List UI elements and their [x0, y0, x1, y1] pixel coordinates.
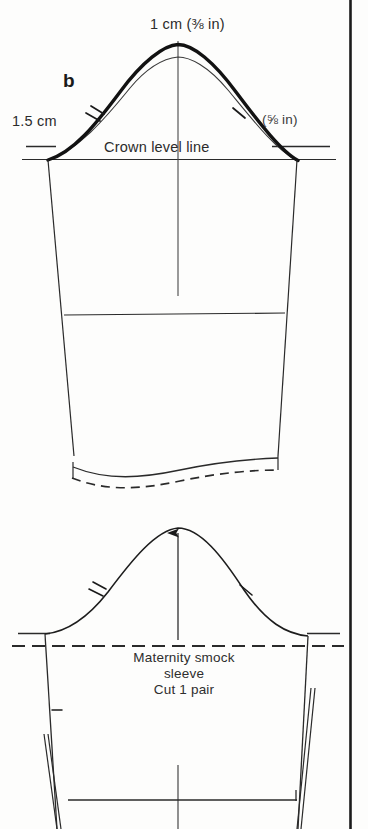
upper-sleeve-diagram: [22, 41, 336, 488]
notch-double-icon: [89, 582, 106, 596]
upper-elbow-line: [64, 313, 285, 315]
upper-left-seam: [48, 160, 74, 456]
diagram-page: 1 cm (⅜ in) b 1.5 cm (⅝ in) Crown level …: [0, 0, 368, 829]
upper-original-hem-dashed: [72, 470, 278, 488]
notch-single-icon: [233, 108, 245, 118]
pattern-piece-name-line1: Maternity smock: [0, 650, 368, 666]
upper-new-hem-curve: [73, 458, 278, 477]
cap-raise-label: 1 cm (⅜ in): [150, 16, 225, 33]
step-label-b: b: [63, 70, 75, 92]
crown-level-line-label: Crown level line: [104, 139, 210, 156]
pattern-piece-text-block: Maternity smock sleeve Cut 1 pair: [0, 650, 368, 698]
seam-allowance-label: (⅝ in): [262, 112, 298, 128]
lower-cap-curve: [45, 528, 308, 636]
lower-right-facing-line-b: [301, 688, 315, 829]
underarm-lower-label: 1.5 cm: [12, 113, 57, 130]
upper-right-seam: [278, 160, 297, 456]
pattern-piece-cut-instruction: Cut 1 pair: [0, 682, 368, 698]
pattern-piece-name-line2: sleeve: [0, 666, 368, 682]
